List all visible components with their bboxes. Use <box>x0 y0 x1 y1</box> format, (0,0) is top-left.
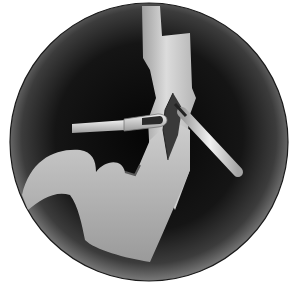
illustration-canvas <box>0 0 298 285</box>
